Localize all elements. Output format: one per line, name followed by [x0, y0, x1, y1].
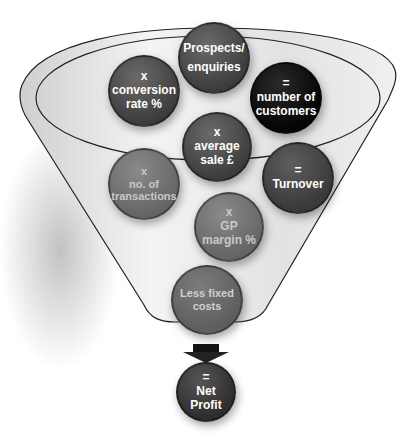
node-text: x: [214, 126, 221, 140]
node-text: sale £: [200, 154, 233, 168]
node-text: =: [202, 371, 209, 385]
node-text: Turnover: [272, 178, 323, 192]
node-text: x: [226, 206, 233, 220]
node-net-profit: = Net Profit: [176, 362, 236, 422]
node-text: enquiries: [187, 61, 240, 75]
node-text: rate %: [126, 98, 162, 112]
node-gp-margin: x GP margin %: [194, 192, 264, 262]
node-average-sale: x average sale £: [182, 112, 252, 182]
node-text: Profit: [190, 399, 221, 413]
node-text: transactions: [111, 190, 176, 203]
node-text: costs: [193, 300, 222, 313]
node-text: margin %: [202, 234, 256, 248]
node-prospects: Prospects/ enquiries: [178, 22, 250, 94]
node-text: customers: [256, 105, 317, 119]
funnel-diagram: Prospects/ enquiries x conversion rate %…: [0, 0, 408, 440]
node-text: x: [141, 70, 148, 84]
node-number-of-customers: = number of customers: [250, 62, 322, 134]
node-text: =: [294, 164, 301, 178]
node-conversion-rate: x conversion rate %: [108, 55, 180, 127]
node-turnover: = Turnover: [262, 142, 334, 214]
node-text: no. of: [129, 178, 159, 191]
node-text: Net: [196, 385, 215, 399]
node-less-fixed-costs: Less fixed costs: [171, 265, 243, 335]
node-text: Prospects/: [183, 42, 244, 56]
node-no-of-transactions: x no. of transactions: [108, 148, 180, 220]
node-text: =: [282, 77, 289, 91]
node-text: x: [141, 165, 147, 178]
node-text: number of: [257, 91, 316, 105]
node-text: conversion: [112, 84, 176, 98]
node-text: Less fixed: [180, 287, 234, 300]
node-text: GP: [220, 220, 237, 234]
node-text: average: [194, 140, 239, 154]
